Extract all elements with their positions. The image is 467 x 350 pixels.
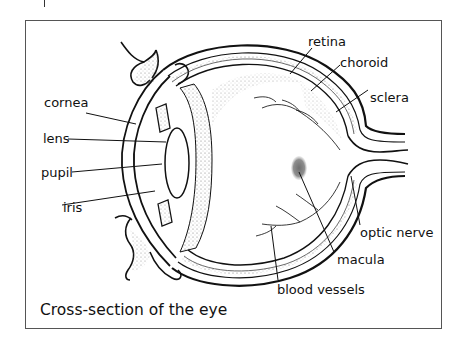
lower-eyelid: [115, 216, 181, 280]
label-pupil: pupil: [41, 166, 73, 179]
macula-spot: [291, 156, 307, 180]
label-choroid: choroid: [340, 56, 388, 69]
figure-caption: Cross-section of the eye: [40, 303, 227, 319]
label-iris: iris: [63, 201, 82, 214]
label-lens: lens: [43, 132, 70, 145]
upper-eyelid-shading: [134, 52, 159, 86]
label-macula: macula: [337, 253, 385, 266]
label-optic-nerve: optic nerve: [360, 226, 433, 239]
label-cornea: cornea: [44, 96, 88, 109]
vitreous-stipple: [212, 73, 306, 126]
label-blood-vessels: blood vessels: [277, 283, 365, 296]
lens: [165, 128, 189, 198]
label-sclera: sclera: [370, 91, 409, 104]
label-retina: retina: [308, 35, 346, 48]
